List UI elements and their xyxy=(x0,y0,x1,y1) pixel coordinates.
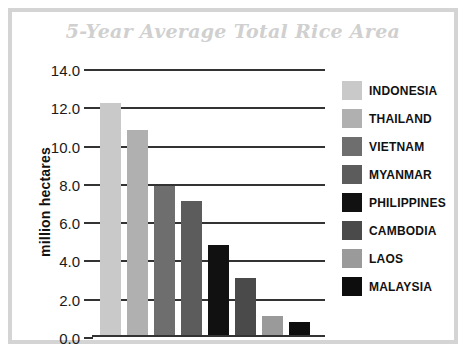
y-tick-label: 4.0 xyxy=(59,253,80,270)
legend-label: LAOS xyxy=(369,252,403,266)
y-tick-label: 6.0 xyxy=(59,215,80,232)
x-axis-line xyxy=(92,335,325,337)
y-tick-label: 12.0 xyxy=(51,100,80,117)
y-tick-label: 10.0 xyxy=(51,138,80,155)
bar-cambodia xyxy=(235,278,256,335)
legend-item-cambodia[interactable]: CAMBODIA xyxy=(342,218,460,243)
legend-item-thailand[interactable]: THAILAND xyxy=(342,106,460,131)
plot-area: 14.012.010.08.06.04.02.00.0 xyxy=(92,67,325,337)
bar-indonesia xyxy=(100,103,121,335)
legend-item-philippines[interactable]: PHILIPPINES xyxy=(342,190,460,215)
legend-item-indonesia[interactable]: INDONESIA xyxy=(342,78,460,103)
bar-myanmar xyxy=(181,201,202,335)
legend-swatch-myanmar xyxy=(342,165,362,184)
legend-label: MALAYSIA xyxy=(369,280,432,294)
legend-swatch-malaysia xyxy=(342,277,362,296)
legend-label: THAILAND xyxy=(369,112,432,126)
legend-label: INDONESIA xyxy=(369,84,437,98)
chart-legend: INDONESIATHAILANDVIETNAMMYANMARPHILIPPIN… xyxy=(342,78,460,302)
legend-swatch-laos xyxy=(342,249,362,268)
bar-series xyxy=(92,67,325,335)
legend-label: PHILIPPINES xyxy=(369,196,446,210)
bar-laos xyxy=(262,316,283,335)
y-tick-label: 2.0 xyxy=(59,291,80,308)
legend-item-vietnam[interactable]: VIETNAM xyxy=(342,134,460,159)
y-tick-label: 0.0 xyxy=(59,330,80,347)
chart-title: 5-Year Average Total Rice Area xyxy=(12,20,454,42)
legend-swatch-cambodia xyxy=(342,221,362,240)
legend-label: CAMBODIA xyxy=(369,224,437,238)
y-tick-mark xyxy=(84,337,93,339)
bar-malaysia xyxy=(289,322,310,335)
legend-item-laos[interactable]: LAOS xyxy=(342,246,460,271)
legend-swatch-thailand xyxy=(342,109,362,128)
y-tick-label: 14.0 xyxy=(51,62,80,79)
chart-card: 5-Year Average Total Rice Area million h… xyxy=(8,8,458,344)
bar-vietnam xyxy=(154,186,175,335)
legend-label: MYANMAR xyxy=(369,168,432,182)
legend-label: VIETNAM xyxy=(369,140,424,154)
bar-philippines xyxy=(208,245,229,335)
bar-thailand xyxy=(127,130,148,335)
legend-item-myanmar[interactable]: MYANMAR xyxy=(342,162,460,187)
y-axis-title-label: million hectares xyxy=(37,147,53,257)
legend-swatch-vietnam xyxy=(342,137,362,156)
legend-swatch-philippines xyxy=(342,193,362,212)
y-tick-label: 8.0 xyxy=(59,176,80,193)
legend-swatch-indonesia xyxy=(342,81,362,100)
legend-item-malaysia[interactable]: MALAYSIA xyxy=(342,274,460,299)
